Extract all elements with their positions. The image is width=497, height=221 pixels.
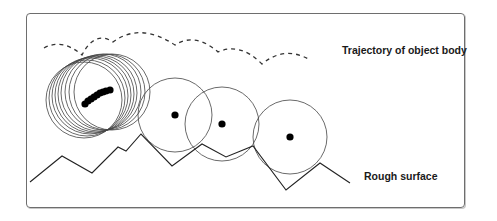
- center-dot: [106, 86, 113, 93]
- cluster-circle: [46, 62, 122, 138]
- trajectory-label: Trajectory of object body: [342, 44, 467, 56]
- center-dot: [171, 111, 178, 118]
- center-dot: [218, 120, 225, 127]
- surface-label: Rough surface: [364, 170, 438, 182]
- center-dot: [286, 133, 293, 140]
- rolling-object-diagram: [0, 0, 497, 221]
- circle-cluster: [46, 54, 150, 138]
